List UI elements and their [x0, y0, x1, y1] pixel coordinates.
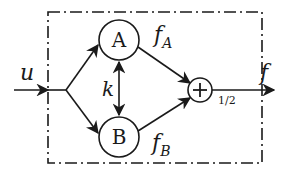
- output-label: f: [258, 60, 272, 85]
- block-diagram: u A B k fA fB 1/2 f: [0, 0, 287, 175]
- diagram-canvas: u A B k fA fB 1/2 f: [0, 0, 287, 175]
- block-b-label: B: [112, 125, 127, 149]
- branch-to-b-arrow: [66, 90, 98, 133]
- fa-arrow: [138, 47, 190, 83]
- branch-to-a-arrow: [66, 45, 98, 90]
- fa-sub: A: [160, 35, 172, 51]
- input-label: u: [20, 60, 34, 85]
- fb-label: fB: [150, 130, 170, 159]
- fb-arrow: [138, 98, 190, 131]
- fb-sub: B: [159, 143, 170, 159]
- fa-label: fA: [152, 22, 172, 51]
- adder-gain-label: 1/2: [218, 94, 236, 107]
- coupling-k-label: k: [102, 77, 114, 101]
- block-a-label: A: [111, 28, 127, 52]
